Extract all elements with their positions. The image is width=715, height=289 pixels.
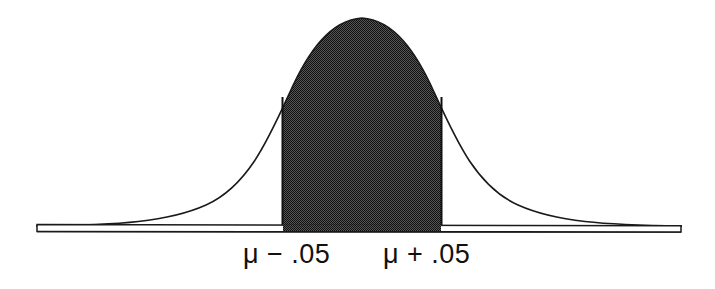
shaded-area-baseline-fill [283,225,441,232]
distribution-figure: μ − .05 μ + .05 [0,0,715,289]
axis-label-upper-bound: μ + .05 [383,241,470,268]
axis-label-lower-bound: μ − .05 [243,241,330,268]
normal-curve-chart [0,0,715,289]
